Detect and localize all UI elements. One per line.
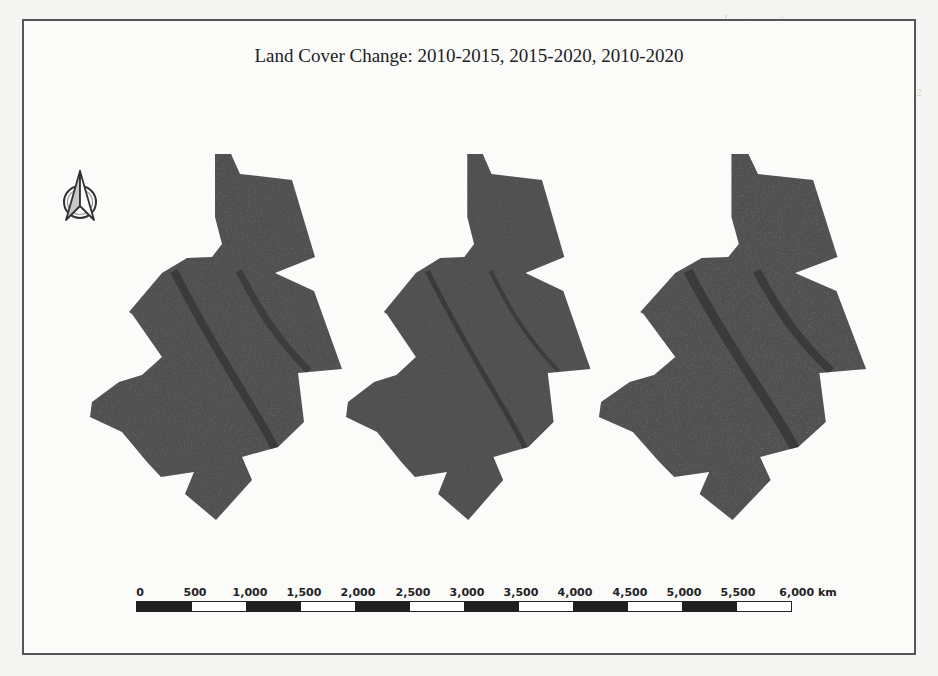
scale-segment <box>192 602 247 611</box>
scale-tick-label: 3,500 <box>504 586 539 599</box>
scale-tick-label: 0 <box>136 586 144 599</box>
scale-tick-label: 4,000 <box>558 586 593 599</box>
scale-tick-label: 1,500 <box>287 586 322 599</box>
scale-tick-label: 1,000 <box>233 586 268 599</box>
scale-segment <box>573 602 628 611</box>
map-2015-2020 <box>340 151 602 531</box>
scale-segment <box>137 602 192 611</box>
maps-panel <box>24 21 918 657</box>
scale-segment <box>301 602 356 611</box>
scale-tick-label: 500 <box>184 586 207 599</box>
scale-segment <box>246 602 301 611</box>
scale-segment <box>464 602 519 611</box>
scale-bar: 0 500 1,000 1,500 2,000 2,500 3,000 3,50… <box>136 586 896 636</box>
scale-segment <box>628 602 683 611</box>
scale-segment <box>410 602 465 611</box>
scale-tick-label: 5,000 <box>667 586 702 599</box>
scale-tick-label: 2,500 <box>396 586 431 599</box>
scale-tick-label: 5,500 <box>721 586 756 599</box>
scale-tick-label: 4,500 <box>613 586 648 599</box>
map-2010-2015 <box>84 151 354 531</box>
scale-segment <box>682 602 737 611</box>
scale-tick-label: 6,000 km <box>779 586 836 599</box>
scale-segment <box>737 602 792 611</box>
map-2010-2020 <box>593 151 879 531</box>
map-layout-frame: Land Cover Change: 2010-2015, 2015-2020,… <box>22 19 916 655</box>
scale-segment <box>355 602 410 611</box>
scale-tick-label: 3,000 <box>450 586 485 599</box>
scale-bar-segments <box>136 601 792 612</box>
scale-segment <box>519 602 574 611</box>
scale-tick-label: 2,000 <box>341 586 376 599</box>
